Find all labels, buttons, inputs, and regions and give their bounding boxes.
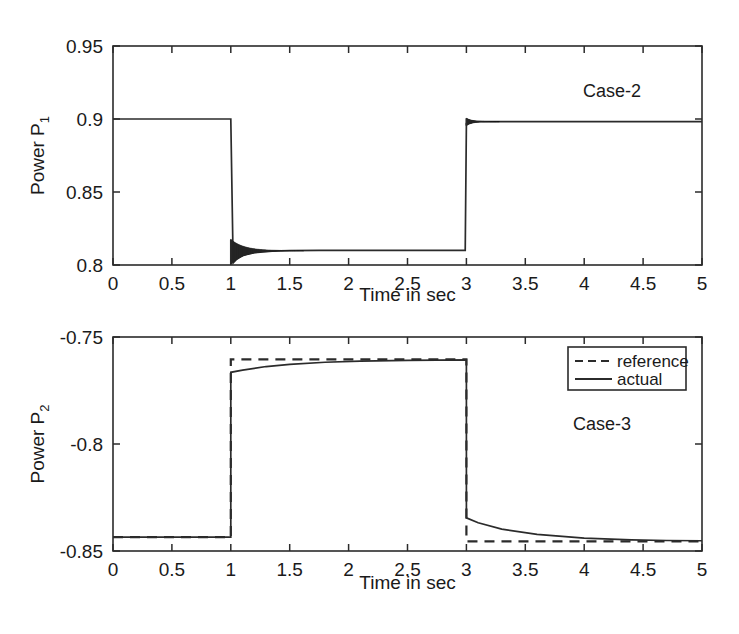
x-axis-label: Time in sec	[359, 572, 455, 593]
y-tick-label: 0.85	[66, 182, 103, 203]
legend: referenceactual	[568, 347, 689, 390]
x-tick-label: 3	[461, 273, 472, 294]
x-axis-label: Time in sec	[359, 284, 455, 305]
x-tick-label: 0	[108, 273, 119, 294]
x-tick-label: 2	[343, 273, 354, 294]
series-actual	[113, 119, 702, 263]
x-tick-label: 3.5	[512, 273, 538, 294]
y-axis-label: Power P1	[27, 116, 52, 195]
y-axis-label-subscript: 2	[37, 404, 52, 411]
x-tick-label: 4.5	[630, 273, 656, 294]
y-axis-label-subscript: 1	[37, 116, 52, 123]
x-tick-label: 1	[226, 559, 237, 580]
y-axis-label: Power P2	[27, 404, 52, 483]
case-annotation: Case-2	[583, 81, 641, 101]
x-tick-label: 4.5	[630, 559, 656, 580]
plot-frame-1	[113, 46, 702, 265]
y-tick-label: -0.8	[70, 434, 103, 455]
x-tick-label: 3.5	[512, 559, 538, 580]
x-tick-label: 1.5	[276, 559, 302, 580]
x-tick-label: 2	[343, 559, 354, 580]
y-axis-label-main: Power P	[27, 123, 48, 195]
chart-canvas: 00.511.522.533.544.550.80.850.90.95Time …	[0, 0, 739, 634]
x-tick-label: 0.5	[159, 559, 185, 580]
x-tick-label: 1.5	[276, 273, 302, 294]
series-group	[113, 118, 702, 264]
legend-label-actual: actual	[617, 370, 662, 389]
y-tick-label: -0.85	[60, 541, 103, 562]
x-tick-label: 5	[697, 273, 708, 294]
chart-panel-2: 00.511.522.533.544.55-0.85-0.8-0.75Time …	[27, 327, 707, 593]
x-tick-label: 4	[579, 559, 590, 580]
figure-panel: 00.511.522.533.544.550.80.850.90.95Time …	[0, 0, 739, 634]
y-tick-label: 0.8	[77, 255, 103, 276]
case-annotation: Case-3	[573, 414, 631, 434]
y-axis-label-main: Power P	[27, 412, 48, 484]
x-tick-label: 3	[461, 559, 472, 580]
y-tick-label: -0.75	[60, 327, 103, 348]
x-tick-label: 1	[226, 273, 237, 294]
x-tick-label: 0	[108, 559, 119, 580]
y-tick-label: 0.9	[77, 109, 103, 130]
legend-label-reference: reference	[617, 352, 689, 371]
x-tick-label: 0.5	[159, 273, 185, 294]
y-tick-label: 0.95	[66, 36, 103, 57]
chart-panel-1: 00.511.522.533.544.550.80.850.90.95Time …	[27, 36, 707, 305]
x-tick-label: 4	[579, 273, 590, 294]
x-tick-label: 5	[697, 559, 708, 580]
